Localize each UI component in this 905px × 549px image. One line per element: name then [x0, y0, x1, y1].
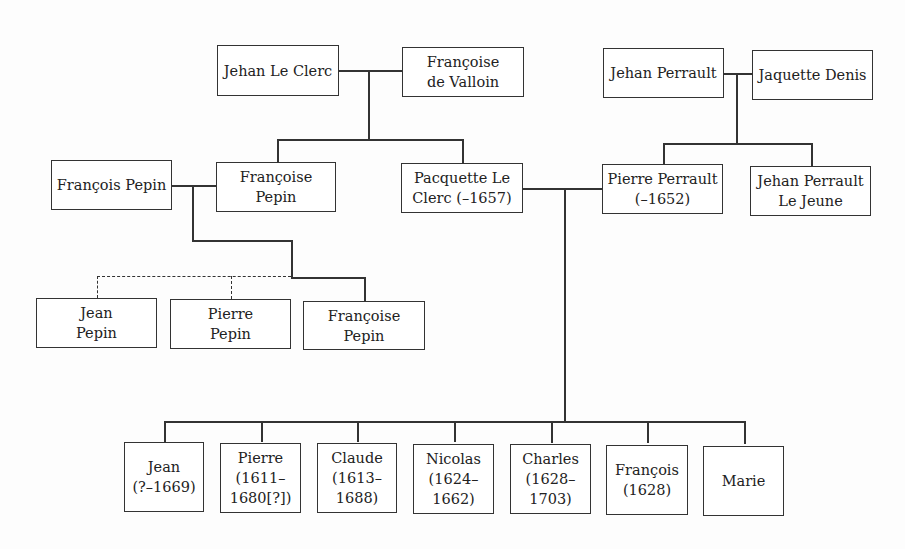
person-name: Jehan Perrault [610, 63, 716, 83]
marriage-line [724, 73, 752, 75]
person-name: François Pepin [57, 175, 166, 195]
person-francoise-pepin-child: Françoise Pepin [303, 301, 425, 350]
person-jehan-perrault-le-jeune: Jehan Perrault Le Jeune [750, 166, 871, 216]
person-name: Pierre (1611– 1680[?]) [230, 448, 292, 508]
person-jean-pepin: Jean Pepin [36, 298, 157, 348]
descent-line [277, 139, 279, 162]
person-name: Marie [722, 471, 766, 491]
person-name: Françoise de Valloin [427, 52, 500, 92]
descent-line [564, 188, 566, 422]
person-pierre-perrault: Pierre Perrault (–1652) [602, 164, 723, 214]
person-francois-pepin: François Pepin [51, 160, 172, 210]
person-name: Pierre Perrault (–1652) [607, 169, 717, 209]
person-pierre-pepin: Pierre Pepin [170, 299, 291, 349]
descent-line [261, 421, 263, 442]
person-name: Jean (?–1669) [132, 457, 195, 497]
person-name: Jaquette Denis [758, 65, 866, 85]
person-francois: François (1628) [606, 445, 688, 515]
uncertain-descent-line [231, 276, 232, 299]
descent-line [736, 73, 738, 143]
person-name: Pacquette Le Clerc (–1657) [412, 168, 511, 208]
person-name: Françoise Pepin [328, 306, 401, 346]
person-marie: Marie [703, 446, 784, 516]
person-name: Jehan Perrault Le Jeune [757, 171, 863, 211]
person-name: Jehan Le Clerc [224, 61, 333, 81]
person-charles: Charles (1628– 1703) [510, 444, 591, 514]
person-name: Charles (1628– 1703) [522, 449, 579, 509]
descent-line [454, 421, 456, 442]
uncertain-descent-line [97, 276, 98, 298]
person-francoise-de-valloin: Françoise de Valloin [402, 47, 524, 97]
person-name: Claude (1613– 1688) [331, 448, 383, 508]
marriage-line [339, 70, 402, 72]
descent-line [192, 240, 292, 242]
descent-line [357, 421, 359, 442]
person-jaquette-denis: Jaquette Denis [752, 50, 873, 100]
person-name: Pierre Pepin [208, 304, 253, 344]
descent-line [164, 421, 166, 442]
descent-line [462, 139, 464, 163]
person-name: Jean Pepin [76, 303, 117, 343]
descent-line [291, 240, 293, 278]
descent-line [647, 421, 649, 443]
person-name: François (1628) [615, 460, 679, 500]
sibling-line [663, 143, 812, 145]
descent-line [192, 185, 194, 241]
sibling-line [277, 139, 463, 141]
person-name: Nicolas (1624– 1662) [426, 449, 481, 509]
marriage-line [172, 185, 216, 187]
sibling-line [291, 277, 366, 279]
descent-line [368, 70, 370, 140]
marriage-line [523, 188, 602, 190]
family-tree-diagram: Jehan Le Clerc Françoise de Valloin Jeha… [0, 0, 905, 549]
person-nicolas: Nicolas (1624– 1662) [413, 444, 494, 514]
descent-line [744, 421, 746, 444]
descent-line [551, 421, 553, 443]
person-jehan-perrault: Jehan Perrault [603, 48, 724, 98]
person-name: Françoise Pepin [220, 167, 332, 207]
descent-line [663, 143, 665, 164]
descent-line [364, 277, 366, 301]
descent-line [811, 143, 813, 166]
uncertain-sibling-line [97, 276, 291, 277]
person-jehan-le-clerc: Jehan Le Clerc [217, 45, 339, 96]
person-pierre: Pierre (1611– 1680[?]) [220, 443, 301, 513]
person-francoise-pepin: Françoise Pepin [216, 162, 336, 212]
person-claude: Claude (1613– 1688) [317, 443, 397, 513]
person-pacquette-le-clerc: Pacquette Le Clerc (–1657) [401, 163, 523, 213]
person-jean: Jean (?–1669) [124, 442, 204, 512]
